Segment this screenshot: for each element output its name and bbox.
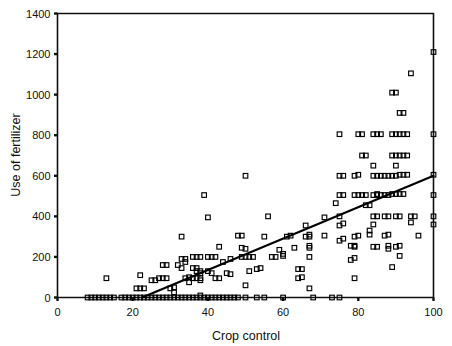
x-tick-label: 80: [352, 306, 364, 318]
y-tick-label: 1000: [26, 89, 50, 101]
y-axis-label: Use of fertilizer: [9, 113, 23, 196]
y-tick-label: 1400: [26, 8, 50, 20]
scatter-plot-figure: 0200400600800100012001400 020406080100 C…: [0, 0, 452, 346]
y-tick-label: 600: [32, 170, 50, 182]
x-axis-label: Crop control: [212, 329, 280, 343]
y-tick-label: 0: [44, 292, 50, 304]
x-tick-label: 40: [202, 306, 214, 318]
x-tick-label: 0: [54, 306, 60, 318]
x-tick-label: 20: [127, 306, 139, 318]
y-tick-label: 800: [32, 129, 50, 141]
x-tick-label: 100: [424, 306, 442, 318]
y-tick-label: 400: [32, 210, 50, 222]
y-tick-label: 200: [32, 251, 50, 263]
x-tick-label: 60: [277, 306, 289, 318]
y-tick-label: 1200: [26, 48, 50, 60]
